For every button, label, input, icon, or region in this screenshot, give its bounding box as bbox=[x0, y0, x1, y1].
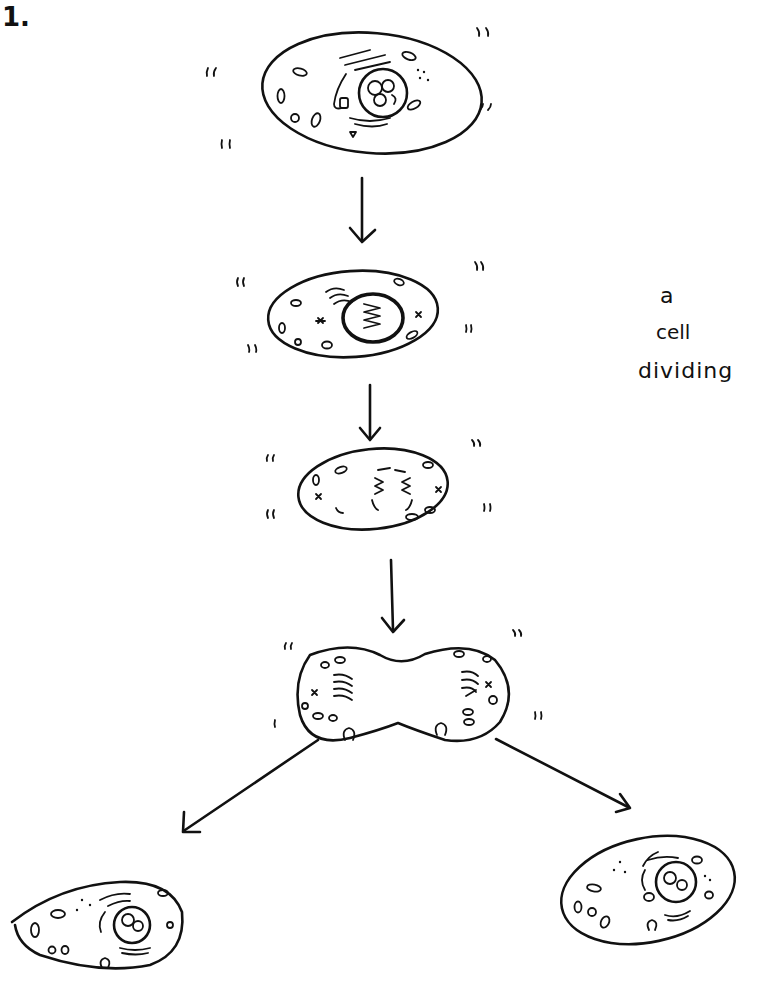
cell-metaphase bbox=[267, 440, 491, 537]
arrow-down-icon bbox=[382, 560, 404, 632]
arrow-down-icon bbox=[350, 178, 375, 242]
arrow-down-left-icon bbox=[183, 740, 318, 832]
arrow-down-icon bbox=[360, 385, 380, 440]
arrow-down-right-icon bbox=[496, 739, 630, 812]
cell-daughter-right bbox=[551, 821, 745, 959]
cell-division-diagram bbox=[0, 0, 763, 1006]
cell-prophase bbox=[237, 262, 483, 363]
cell-interphase bbox=[207, 24, 491, 163]
cell-telophase bbox=[275, 630, 542, 741]
cell-daughter-left bbox=[12, 882, 182, 968]
